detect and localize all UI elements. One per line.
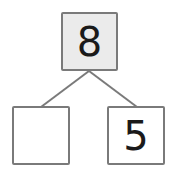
connector-left (41, 71, 89, 107)
part-box-left[interactable] (12, 106, 70, 165)
part-box-right: 5 (107, 106, 165, 165)
whole-value: 8 (77, 22, 102, 62)
connector-right (89, 71, 137, 107)
part-right-value: 5 (123, 116, 148, 156)
whole-box: 8 (61, 12, 118, 71)
